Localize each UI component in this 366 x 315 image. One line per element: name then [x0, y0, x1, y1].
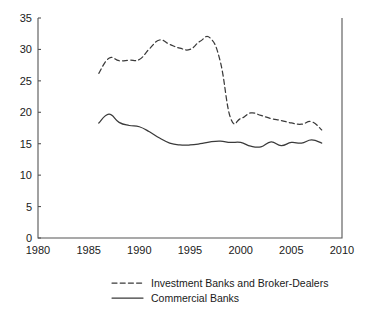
- x-tick-label-1990: 1990: [127, 244, 151, 256]
- legend-label-0: Investment Banks and Broker-Dealers: [151, 277, 328, 289]
- series-path-1: [99, 114, 322, 147]
- y-tick-label-15: 15: [20, 138, 32, 150]
- chart-series: [99, 36, 322, 147]
- axis-frame: [38, 18, 342, 238]
- x-tick-label-1995: 1995: [178, 244, 202, 256]
- chart-axes: [38, 18, 342, 238]
- x-axis-tick-labels: 1980198519901995200020052010: [26, 244, 354, 256]
- y-tick-label-0: 0: [26, 232, 32, 244]
- y-tick-label-10: 10: [20, 169, 32, 181]
- series-path-0: [99, 36, 322, 130]
- x-tick-label-1985: 1985: [76, 244, 100, 256]
- x-tick-label-1980: 1980: [26, 244, 50, 256]
- chart-legend: Investment Banks and Broker-DealersComme…: [112, 277, 328, 304]
- chart-figure: 05101520253035 1980198519901995200020052…: [0, 0, 366, 315]
- y-tick-label-25: 25: [20, 75, 32, 87]
- legend-label-1: Commercial Banks: [151, 292, 239, 304]
- y-tick-label-20: 20: [20, 106, 32, 118]
- y-tick-label-30: 30: [20, 43, 32, 55]
- y-tick-label-5: 5: [26, 201, 32, 213]
- x-tick-label-2000: 2000: [228, 244, 252, 256]
- x-tick-label-2010: 2010: [330, 244, 354, 256]
- y-axis-tick-labels: 05101520253035: [20, 12, 32, 244]
- y-tick-label-35: 35: [20, 12, 32, 24]
- x-tick-label-2005: 2005: [279, 244, 303, 256]
- line-chart: 05101520253035 1980198519901995200020052…: [0, 0, 366, 315]
